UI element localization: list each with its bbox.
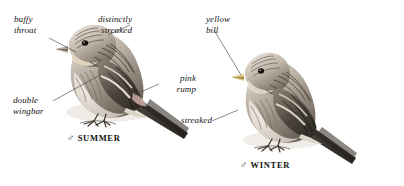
caption-summer: ♂ SUMMER: [67, 133, 121, 143]
winter-bird-figure: [231, 53, 357, 164]
male-symbol-summer: ♂: [67, 133, 75, 143]
caption-summer-text: SUMMER: [78, 133, 121, 143]
label-pink-rump: pink rump: [160, 73, 196, 95]
leader-streaked: [212, 110, 238, 121]
caption-winter: ♂ WINTER: [240, 160, 290, 170]
illustration-plate: buffy throat distinctly streaked yellow …: [0, 0, 404, 186]
label-distinctly-streaked: distinctly streaked: [82, 14, 132, 36]
leader-yellow-bill: [214, 30, 241, 75]
label-streaked: streaked: [176, 115, 212, 126]
bird-plate-artwork: [0, 0, 404, 186]
label-yellow-bill: yellow bill: [206, 14, 230, 36]
label-double-wingbar: double wingbar: [13, 95, 44, 117]
caption-winter-text: WINTER: [251, 160, 291, 170]
male-symbol-winter: ♂: [240, 160, 248, 170]
label-buffy-throat: buffy throat: [14, 14, 36, 36]
